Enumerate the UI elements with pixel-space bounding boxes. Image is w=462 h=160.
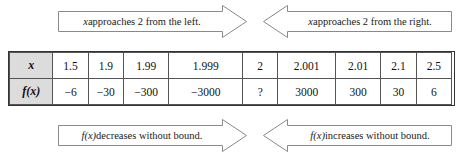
cell-fx-6: 300: [335, 79, 380, 105]
bottom-arrow-banner-row: f(x) decreases without bound. f(x) incre…: [0, 116, 462, 156]
row-header-fx: f(x): [10, 79, 53, 105]
bottom-left-banner-variable: f(x): [81, 130, 96, 142]
cell-fx-4: ?: [243, 79, 278, 105]
top-right-banner-label: x approaches 2 from the right.: [290, 2, 450, 42]
cell-x-5: 2.001: [278, 53, 336, 79]
cell-x-0: 1.5: [53, 53, 88, 79]
cell-x-2: 1.99: [124, 53, 169, 79]
top-left-banner-text: approaches 2 from the left.: [88, 16, 201, 28]
limit-table-figure: x approaches 2 from the left. x approach…: [0, 0, 462, 160]
cell-fx-2: −300: [124, 79, 169, 105]
row-header-x: x: [10, 53, 53, 79]
cell-fx-5: 3000: [278, 79, 336, 105]
cell-x-3: 1.999: [169, 53, 243, 79]
cell-x-4: 2: [243, 53, 278, 79]
cell-fx-7: 30: [381, 79, 416, 105]
cell-fx-8: 6: [416, 79, 451, 105]
cell-fx-3: −3000: [169, 79, 243, 105]
cell-fx-0: −6: [53, 79, 88, 105]
top-right-banner-text: approaches 2 from the right.: [313, 16, 432, 28]
bottom-left-banner-label: f(x) decreases without bound.: [62, 116, 222, 156]
bottom-left-banner-text: decreases without bound.: [96, 130, 202, 142]
cell-x-7: 2.1: [381, 53, 416, 79]
cell-x-6: 2.01: [335, 53, 380, 79]
bottom-right-banner-label: f(x) increases without bound.: [290, 116, 450, 156]
top-arrow-banner-row: x approaches 2 from the left. x approach…: [0, 2, 462, 42]
top-left-banner-label: x approaches 2 from the left.: [62, 2, 222, 42]
bottom-right-banner-variable: f(x): [310, 130, 325, 142]
cell-x-8: 2.5: [416, 53, 451, 79]
table-row-x: x 1.5 1.9 1.99 1.999 2 2.001 2.01 2.1 2.…: [10, 53, 452, 79]
bottom-right-banner-text: increases without bound.: [325, 130, 430, 142]
cell-fx-1: −30: [88, 79, 123, 105]
table-row-fx: f(x) −6 −30 −300 −3000 ? 3000 300 30 6: [10, 79, 452, 105]
limit-value-table: x 1.5 1.9 1.99 1.999 2 2.001 2.01 2.1 2.…: [9, 52, 452, 105]
cell-x-1: 1.9: [88, 53, 123, 79]
